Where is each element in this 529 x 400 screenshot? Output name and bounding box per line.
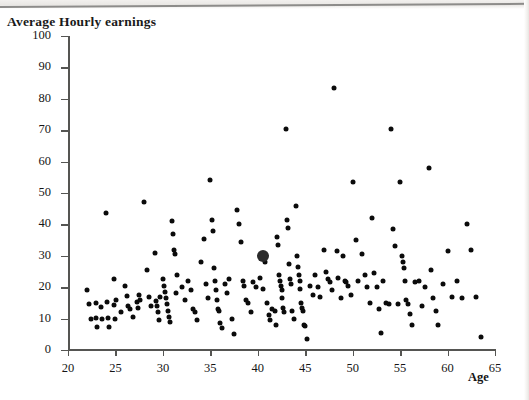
- y-axis-line: [68, 36, 70, 350]
- data-point: [303, 324, 308, 329]
- data-point: [434, 308, 439, 313]
- data-point: [336, 275, 341, 280]
- data-point: [275, 242, 280, 247]
- data-point: [206, 296, 211, 301]
- data-point: [288, 282, 293, 287]
- y-tick-label: 30: [39, 247, 52, 263]
- x-tick: [495, 349, 496, 356]
- x-tick-label: 40: [252, 360, 265, 376]
- data-point: [334, 249, 339, 254]
- y-tick: 0: [61, 350, 68, 351]
- y-tick: 10: [61, 319, 68, 320]
- data-point: [459, 296, 464, 301]
- data-point: [241, 283, 246, 288]
- data-point: [375, 285, 380, 290]
- data-point: [353, 238, 358, 243]
- data-point: [174, 291, 179, 296]
- x-tick-label: 50: [346, 360, 359, 376]
- y-tick: 20: [61, 287, 68, 288]
- data-point: [312, 272, 317, 277]
- data-point: [329, 288, 334, 293]
- data-point: [156, 310, 161, 315]
- data-point: [119, 310, 124, 315]
- data-point: [227, 277, 232, 282]
- data-point: [130, 315, 135, 320]
- data-point: [431, 296, 436, 301]
- data-point: [455, 278, 460, 283]
- data-point: [310, 293, 315, 298]
- data-point: [274, 234, 279, 239]
- data-point: [331, 85, 336, 90]
- data-point: [162, 289, 167, 294]
- data-point: [393, 244, 398, 249]
- data-point: [295, 264, 300, 269]
- y-tick-label: 40: [39, 215, 52, 231]
- data-point: [400, 253, 405, 258]
- y-tick: 30: [61, 256, 68, 257]
- x-tick: [115, 349, 116, 356]
- y-tick-label: 10: [39, 310, 52, 326]
- data-point: [95, 325, 100, 330]
- x-tick-label: 35: [204, 360, 217, 376]
- y-tick-label: 20: [39, 278, 52, 294]
- y-tick: 100: [61, 36, 68, 37]
- data-point: [179, 285, 184, 290]
- data-point: [307, 283, 312, 288]
- data-point: [305, 337, 310, 342]
- data-point: [402, 278, 407, 283]
- data-point: [193, 310, 198, 315]
- data-point: [161, 283, 166, 288]
- highlighted-data-point: [257, 250, 269, 262]
- data-point: [367, 300, 372, 305]
- data-point: [285, 217, 290, 222]
- x-tick: [353, 349, 354, 356]
- scatter-plot-area: 0102030405060708090100 20253035404550556…: [68, 36, 495, 350]
- x-tick-label: 30: [157, 360, 170, 376]
- data-point: [426, 165, 431, 170]
- data-point: [293, 203, 298, 208]
- data-point: [348, 293, 353, 298]
- x-tick: [448, 349, 449, 356]
- data-point: [185, 278, 190, 283]
- scanned-page: Average Hourly earnings 0102030405060708…: [0, 0, 529, 400]
- chart-title: Average Hourly earnings: [7, 14, 156, 30]
- data-point: [122, 283, 127, 288]
- data-point: [422, 285, 427, 290]
- data-point: [280, 296, 285, 301]
- data-point: [410, 322, 415, 327]
- data-point: [445, 249, 450, 254]
- data-point: [381, 278, 386, 283]
- data-point: [213, 278, 218, 283]
- x-axis-label: Age: [468, 370, 489, 385]
- y-tick-label: 0: [45, 341, 51, 357]
- data-point: [225, 291, 230, 296]
- y-tick: 70: [61, 130, 68, 131]
- data-point: [99, 304, 104, 309]
- x-tick: [210, 349, 211, 356]
- y-tick: 90: [61, 67, 68, 68]
- y-tick-label: 60: [39, 153, 52, 169]
- data-point: [401, 266, 406, 271]
- data-point: [208, 178, 213, 183]
- data-point: [440, 282, 445, 287]
- data-point: [318, 294, 323, 299]
- data-point: [296, 272, 301, 277]
- data-point: [315, 285, 320, 290]
- data-point: [230, 316, 235, 321]
- data-point: [216, 308, 221, 313]
- data-point: [182, 297, 187, 302]
- data-point: [400, 260, 405, 265]
- y-tick-label: 80: [39, 90, 52, 106]
- data-point: [136, 305, 141, 310]
- data-point: [210, 217, 215, 222]
- data-point: [146, 294, 151, 299]
- data-point: [282, 310, 287, 315]
- data-point: [363, 272, 368, 277]
- data-point: [203, 282, 208, 287]
- data-point: [478, 335, 483, 340]
- x-tick: [400, 349, 401, 356]
- data-point: [356, 278, 361, 283]
- data-point: [294, 253, 299, 258]
- data-point: [369, 216, 374, 221]
- x-tick-label: 45: [299, 360, 312, 376]
